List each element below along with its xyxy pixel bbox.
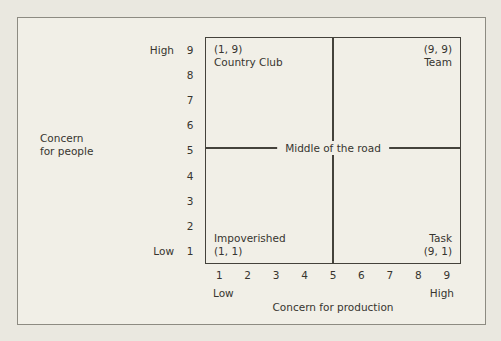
quadrant-impoverished-coord: (1, 1) bbox=[214, 245, 286, 258]
middle-of-the-road-label: Middle of the road bbox=[277, 141, 389, 155]
quadrant-team: (9, 9) Team bbox=[424, 43, 452, 69]
x-axis-title: Concern for production bbox=[205, 301, 461, 313]
x-tick-1: 1 bbox=[205, 269, 233, 282]
y-tick-7: 7 bbox=[182, 94, 198, 106]
quadrant-country-club: (1, 9) Country Club bbox=[214, 43, 283, 69]
y-axis-row: Low 1 bbox=[118, 239, 198, 264]
y-axis-row: High 9 bbox=[118, 37, 198, 62]
quadrant-country-club-coord: (1, 9) bbox=[214, 43, 283, 56]
y-axis-row: 2 bbox=[118, 214, 198, 239]
y-tick-2: 2 bbox=[182, 220, 198, 232]
x-tick-4: 4 bbox=[290, 269, 318, 282]
quadrant-task-name: Task bbox=[424, 232, 452, 245]
x-axis: 1 2 3 4 5 6 7 8 9 bbox=[205, 269, 461, 282]
x-tick-6: 6 bbox=[347, 269, 375, 282]
managerial-grid-figure: Concern for people High 9 8 7 6 5 4 3 2 … bbox=[17, 17, 486, 325]
quadrant-task-coord: (9, 1) bbox=[424, 245, 452, 258]
quadrant-team-coord: (9, 9) bbox=[424, 43, 452, 56]
quadrant-impoverished-name: Impoverished bbox=[214, 232, 286, 245]
x-axis-low-label: Low bbox=[213, 287, 234, 299]
y-tick-5: 5 bbox=[182, 144, 198, 156]
quadrant-impoverished: Impoverished (1, 1) bbox=[214, 232, 286, 258]
y-axis-title: Concern for people bbox=[40, 132, 93, 158]
x-tick-3: 3 bbox=[262, 269, 290, 282]
x-tick-2: 2 bbox=[233, 269, 261, 282]
y-tick-6: 6 bbox=[182, 119, 198, 131]
y-axis-row: 7 bbox=[118, 87, 198, 112]
y-axis-title-line2: for people bbox=[40, 145, 93, 157]
y-axis-title-line1: Concern bbox=[40, 132, 83, 144]
y-tick-4: 4 bbox=[182, 170, 198, 182]
quadrant-task: Task (9, 1) bbox=[424, 232, 452, 258]
y-tick-8: 8 bbox=[182, 69, 198, 81]
y-tick-1: 1 bbox=[182, 245, 198, 257]
x-tick-7: 7 bbox=[376, 269, 404, 282]
grid-plot-area: (1, 9) Country Club (9, 9) Team Impoveri… bbox=[205, 37, 461, 264]
y-axis: High 9 8 7 6 5 4 3 2 Low 1 bbox=[118, 37, 198, 264]
x-tick-5: 5 bbox=[319, 269, 347, 282]
y-axis-high-label: High bbox=[150, 44, 174, 56]
y-axis-row: 4 bbox=[118, 163, 198, 188]
y-axis-row: 3 bbox=[118, 188, 198, 213]
quadrant-country-club-name: Country Club bbox=[214, 56, 283, 69]
x-axis-high-label: High bbox=[394, 287, 454, 299]
y-tick-9: 9 bbox=[182, 44, 198, 56]
quadrant-team-name: Team bbox=[424, 56, 452, 69]
y-axis-row: 8 bbox=[118, 62, 198, 87]
y-axis-row: 6 bbox=[118, 113, 198, 138]
y-axis-row: 5 bbox=[118, 138, 198, 163]
y-tick-3: 3 bbox=[182, 195, 198, 207]
x-tick-8: 8 bbox=[404, 269, 432, 282]
x-tick-9: 9 bbox=[433, 269, 461, 282]
y-axis-low-label: Low bbox=[153, 245, 174, 257]
